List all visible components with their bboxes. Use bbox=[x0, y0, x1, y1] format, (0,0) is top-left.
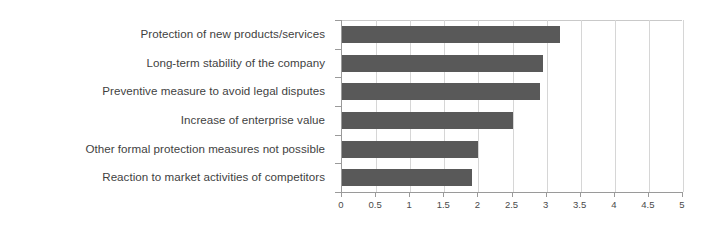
x-axis-tick-label: 5 bbox=[679, 199, 684, 210]
x-axis-tick-label: 0 bbox=[338, 199, 343, 210]
bar-chart: Protection of new products/services Long… bbox=[0, 0, 714, 226]
bar-row bbox=[342, 106, 682, 135]
bar bbox=[342, 55, 543, 72]
x-axis-tick bbox=[682, 192, 683, 197]
category-label: Preventive measure to avoid legal disput… bbox=[102, 85, 325, 98]
gridline bbox=[683, 20, 684, 192]
x-axis-tick bbox=[341, 192, 342, 197]
x-axis-tick bbox=[477, 192, 478, 197]
x-axis-tick bbox=[443, 192, 444, 197]
bar bbox=[342, 112, 513, 129]
category-label: Other formal protection measures not pos… bbox=[85, 143, 325, 156]
x-axis-tick bbox=[580, 192, 581, 197]
bar bbox=[342, 26, 560, 43]
bar-row bbox=[342, 135, 682, 164]
x-axis-tick bbox=[546, 192, 547, 197]
x-axis-tick bbox=[375, 192, 376, 197]
category-axis-labels: Protection of new products/services Long… bbox=[0, 20, 333, 192]
x-axis-tick bbox=[614, 192, 615, 197]
x-axis-tick bbox=[409, 192, 410, 197]
plot-area bbox=[341, 20, 682, 192]
bar-row bbox=[342, 77, 682, 106]
category-label-row: Long-term stability of the company bbox=[0, 49, 333, 78]
bar-row bbox=[342, 163, 682, 192]
category-label: Long-term stability of the company bbox=[146, 57, 325, 70]
bar-series bbox=[342, 20, 682, 192]
category-label-row: Other formal protection measures not pos… bbox=[0, 135, 333, 164]
bar-row bbox=[342, 20, 682, 49]
bar bbox=[342, 169, 472, 186]
x-axis-tick-label: 2 bbox=[475, 199, 480, 210]
x-axis-tick-label: 2.5 bbox=[505, 199, 518, 210]
x-axis-tick-label: 4.5 bbox=[641, 199, 654, 210]
x-axis-tick bbox=[512, 192, 513, 197]
bar-row bbox=[342, 49, 682, 78]
bar bbox=[342, 83, 540, 100]
x-axis-tick bbox=[648, 192, 649, 197]
category-label-row: Increase of enterprise value bbox=[0, 106, 333, 135]
category-label: Increase of enterprise value bbox=[181, 114, 325, 127]
x-axis-tick-label: 1 bbox=[407, 199, 412, 210]
x-axis-tick-marks bbox=[341, 192, 682, 197]
category-label-row: Protection of new products/services bbox=[0, 20, 333, 49]
x-axis-tick-label: 4 bbox=[611, 199, 616, 210]
bar bbox=[342, 141, 478, 158]
category-label: Protection of new products/services bbox=[141, 28, 325, 41]
category-label: Reaction to market activities of competi… bbox=[102, 171, 325, 184]
category-label-row: Preventive measure to avoid legal disput… bbox=[0, 77, 333, 106]
x-axis-tick-label: 1.5 bbox=[437, 199, 450, 210]
x-axis-tick-label: 3.5 bbox=[573, 199, 586, 210]
category-label-row: Reaction to market activities of competi… bbox=[0, 163, 333, 192]
x-axis-tick-label: 0.5 bbox=[368, 199, 381, 210]
x-axis-tick-label: 3 bbox=[543, 199, 548, 210]
x-axis-tick-labels: 00.511.522.533.544.55 bbox=[341, 199, 682, 215]
